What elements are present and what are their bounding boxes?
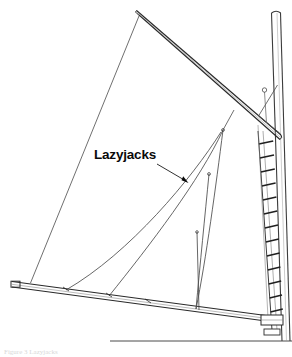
mast-cap	[272, 11, 281, 13]
boom-lower-edge	[12, 287, 277, 323]
mast-step-rung	[259, 141, 283, 312]
boom-group	[11, 281, 277, 322]
sail-leech	[258, 125, 268, 318]
figure-caption-group: Figure 3 Lazyjacks	[4, 348, 58, 356]
figure-caption: Figure 3 Lazyjacks	[4, 348, 58, 356]
annotation-leader-line	[157, 164, 186, 181]
gaff-lower-edge	[139, 15, 281, 140]
mast-steps-group	[258, 131, 283, 330]
sail-group	[31, 16, 269, 318]
gaff-bridle-vertical	[265, 92, 267, 123]
lazyjack-leg-upper-aft	[196, 130, 223, 309]
annotation-lazyjacks-label: Lazyjacks	[94, 147, 156, 162]
lazyjack-apex-node	[196, 129, 225, 234]
boom-upper-edge	[12, 282, 277, 318]
annotation-lazyjacks: Lazyjacks	[94, 147, 189, 183]
mast-base-collar	[264, 329, 280, 335]
gooseneck-group	[261, 315, 283, 335]
lazyjacks-line-drawing: Lazyjacks Figure 3 Lazyjacks	[0, 0, 292, 357]
gaff-group	[136, 11, 282, 140]
boom-shading-line	[12, 284, 277, 320]
lazyjack-hanger-upper	[223, 110, 234, 130]
gaff-bridle-eye	[262, 88, 266, 92]
mast-forward-edge	[272, 13, 283, 341]
figure-container: Lazyjacks Figure 3 Lazyjacks	[0, 0, 292, 357]
gaff-bridle-group	[259, 85, 280, 133]
lazyjack-leg-mid-aft	[196, 174, 209, 309]
gaff-shading-line	[138, 13, 281, 138]
